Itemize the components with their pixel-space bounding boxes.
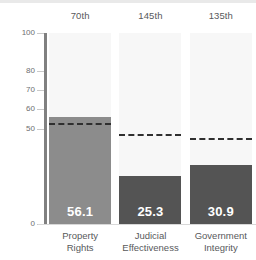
reference-line-property-rights [49, 123, 111, 125]
rank-label-row: 70th 145th 135th [45, 8, 256, 24]
category-label-government-integrity: Government Integrity [186, 230, 256, 253]
column-judicial-effectiveness: 25.3 [115, 33, 185, 224]
category-label-judicial-effectiveness: Judicial Effectiveness [115, 230, 185, 253]
rank-label-judicial-effectiveness: 145th [115, 8, 185, 24]
category-label-property-rights: Property Rights [45, 230, 115, 253]
category-label-judicial-effectiveness-line2: Effectiveness [116, 242, 184, 254]
y-tick-label-50: 50 [26, 123, 35, 134]
category-label-judicial-effectiveness-line1: Judicial [116, 230, 184, 242]
bar-value-government-integrity: 30.9 [190, 204, 252, 219]
column-property-rights: 56.1 [45, 33, 115, 224]
bar-value-judicial-effectiveness: 25.3 [119, 204, 181, 219]
y-tick-mark-100 [37, 33, 44, 34]
category-label-property-rights-line2: Rights [46, 242, 114, 254]
reference-line-government-integrity [190, 138, 252, 140]
category-label-government-integrity-line1: Government [187, 230, 255, 242]
y-tick-70: 70 [0, 90, 44, 91]
y-tick-label-70: 70 [26, 84, 35, 95]
category-label-row: Property Rights Judicial Effectiveness G… [45, 230, 256, 253]
y-tick-80: 80 [0, 71, 44, 72]
y-tick-label-60: 60 [26, 103, 35, 114]
bar-property-rights[interactable]: 56.1 [49, 117, 111, 224]
y-tick-100: 100 [0, 33, 44, 34]
category-label-property-rights-line1: Property [46, 230, 114, 242]
x-axis-baseline [38, 224, 256, 225]
y-tick-mark-60 [37, 109, 44, 110]
column-row: 56.1 25.3 30.9 [45, 33, 256, 224]
y-tick-mark-50 [37, 129, 44, 130]
category-label-government-integrity-line2: Integrity [187, 242, 255, 254]
bar-chart: 70th 145th 135th 100 80 70 60 50 0 56.1 [0, 0, 256, 260]
y-tick-60: 60 [0, 109, 44, 110]
bar-judicial-effectiveness[interactable]: 25.3 [119, 176, 181, 224]
y-tick-mark-80 [37, 71, 44, 72]
column-government-integrity: 30.9 [186, 33, 256, 224]
rank-label-government-integrity: 135th [186, 8, 256, 24]
top-divider [0, 0, 256, 3]
y-tick-label-100: 100 [22, 27, 35, 38]
y-tick-label-80: 80 [26, 65, 35, 76]
y-tick-label-0: 0 [31, 218, 35, 229]
rank-label-property-rights: 70th [45, 8, 115, 24]
plot-area: 56.1 25.3 30.9 [45, 33, 256, 224]
bar-government-integrity[interactable]: 30.9 [190, 165, 252, 224]
reference-line-judicial-effectiveness [119, 134, 181, 136]
y-tick-mark-70 [37, 90, 44, 91]
y-tick-50: 50 [0, 129, 44, 130]
bar-value-property-rights: 56.1 [49, 204, 111, 219]
